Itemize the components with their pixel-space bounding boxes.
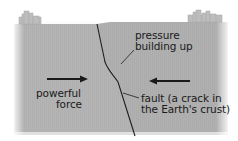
crust-illustration	[0, 0, 238, 141]
right-buildings-icon	[188, 10, 222, 22]
fault-label-line-2: the Earth's crust)	[141, 104, 230, 115]
force-label-line-2: force	[35, 99, 82, 110]
pressure-label-line-2: building up	[135, 41, 193, 52]
force-label: powerful force	[35, 88, 82, 110]
pressure-label: pressure building up	[135, 30, 193, 52]
fault-diagram: pressure building up powerful force faul…	[0, 0, 238, 141]
left-buildings-icon	[19, 11, 41, 24]
fault-label: fault (a crack in the Earth's crust)	[141, 93, 230, 115]
